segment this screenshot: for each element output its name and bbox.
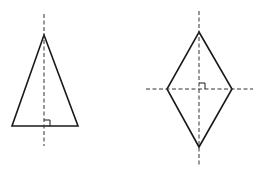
rhombus-right-angle-marker: [199, 83, 205, 89]
rhombus-figure: [146, 11, 253, 167]
triangle-right-angle-marker: [44, 120, 50, 126]
triangle-figure: [12, 14, 78, 146]
isosceles-triangle: [12, 35, 78, 126]
symmetry-diagram: [0, 0, 262, 177]
